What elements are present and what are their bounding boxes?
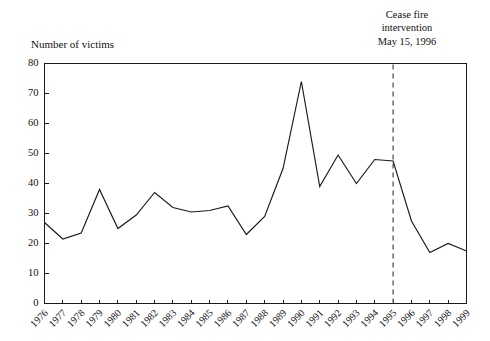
x-tick-label-1987: 1987	[230, 307, 252, 329]
x-tick-label-1991: 1991	[303, 307, 325, 329]
plot-frame	[45, 64, 467, 304]
x-tick-label-1990: 1990	[285, 307, 307, 329]
x-tick-label-1976: 1976	[28, 307, 50, 329]
y-tick-label-0: 0	[33, 297, 38, 308]
x-tick-label-1979: 1979	[83, 307, 105, 329]
y-tick-label-10: 10	[28, 267, 39, 278]
y-tick-label-30: 30	[28, 207, 39, 218]
y-tick-label-20: 20	[28, 237, 39, 248]
x-tick-label-1982: 1982	[138, 307, 160, 329]
y-tick-label-50: 50	[28, 147, 39, 158]
y-tick-label-40: 40	[28, 177, 39, 188]
x-axis-tick-labels: 1976197719781979198019811982198319841985…	[28, 307, 472, 329]
y-tick-label-70: 70	[28, 87, 39, 98]
x-tick-label-1985: 1985	[193, 307, 215, 329]
x-tick-label-1984: 1984	[175, 307, 197, 329]
x-tick-label-1980: 1980	[101, 307, 123, 329]
x-tick-label-1989: 1989	[267, 307, 289, 329]
cease-fire-annotation: Cease fire intervention May 15, 1996	[352, 8, 462, 48]
x-tick-label-1988: 1988	[248, 307, 270, 329]
chart-figure: Cease fire intervention May 15, 1996 Num…	[0, 0, 490, 341]
y-axis-ticks: 01020304050607080	[28, 57, 49, 308]
annotation-line-1: Cease fire	[352, 8, 462, 21]
x-tick-label-1986: 1986	[211, 307, 233, 329]
victims-series-line	[45, 82, 467, 253]
x-tick-label-1978: 1978	[65, 307, 87, 329]
x-tick-label-1983: 1983	[156, 307, 178, 329]
x-tick-label-1992: 1992	[322, 307, 344, 329]
x-tick-label-1999: 1999	[450, 307, 472, 329]
x-tick-label-1981: 1981	[120, 307, 142, 329]
annotation-line-2: intervention	[352, 21, 462, 34]
x-tick-label-1996: 1996	[395, 307, 417, 329]
x-tick-label-1995: 1995	[377, 307, 399, 329]
y-tick-label-80: 80	[28, 57, 39, 68]
x-axis-ticks	[45, 300, 467, 304]
x-tick-label-1993: 1993	[340, 307, 362, 329]
x-tick-label-1998: 1998	[432, 307, 454, 329]
y-tick-label-60: 60	[28, 117, 39, 128]
x-tick-label-1997: 1997	[413, 307, 435, 329]
y-axis-title: Number of victims	[31, 38, 114, 50]
line-chart-plot: 01020304050607080 1976197719781979198019…	[0, 0, 490, 341]
annotation-line-3: May 15, 1996	[352, 35, 462, 48]
x-tick-label-1994: 1994	[358, 307, 380, 329]
x-tick-label-1977: 1977	[46, 307, 68, 329]
